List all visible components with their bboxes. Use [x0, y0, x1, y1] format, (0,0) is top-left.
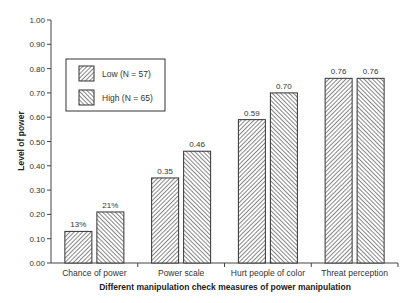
y-axis: 0.000.100.200.300.400.500.600.700.800.90…	[29, 16, 51, 268]
bar-high	[184, 151, 211, 263]
bar-value-label: 0.59	[244, 109, 260, 118]
bar-value-label: 0.76	[331, 67, 347, 76]
y-tick-label: 0.80	[29, 65, 45, 74]
legend-swatch-low	[79, 66, 94, 81]
y-tick-label: 1.00	[29, 16, 45, 25]
y-tick-label: 0.20	[29, 210, 45, 219]
y-tick-label: 0.60	[29, 113, 45, 122]
bar-high	[270, 93, 297, 263]
bar-low	[238, 120, 265, 263]
y-tick-label: 0.10	[29, 235, 45, 244]
bar-chart: 0.000.100.200.300.400.500.600.700.800.90…	[0, 0, 417, 303]
bar-low	[65, 231, 92, 263]
bar-low	[325, 78, 352, 263]
bar-value-label: 13%	[70, 220, 86, 229]
y-tick-label: 0.90	[29, 40, 45, 49]
y-tick-label: 0.70	[29, 89, 45, 98]
y-tick-label: 0.00	[29, 259, 45, 268]
bar-low	[152, 178, 179, 263]
bar-value-label: 0.76	[363, 67, 379, 76]
x-axis-title: Different manipulation check measures of…	[99, 282, 351, 292]
legend: Low (N = 57)High (N = 65)	[66, 59, 165, 111]
y-tick-label: 0.30	[29, 186, 45, 195]
x-axis: Chance of powerPower scaleHurt people of…	[51, 263, 398, 278]
x-category-label: Chance of power	[62, 268, 126, 278]
bar-high	[97, 212, 124, 263]
bar-value-label: 21%	[102, 201, 118, 210]
bar-value-label: 0.70	[276, 82, 292, 91]
x-category-label: Threat perception	[321, 268, 388, 278]
legend-label-high: High (N = 65)	[102, 93, 153, 103]
y-tick-label: 0.50	[29, 138, 45, 147]
x-category-label: Power scale	[158, 268, 205, 278]
bar-high	[357, 78, 384, 263]
y-axis-title: Level of power	[16, 111, 26, 171]
legend-swatch-high	[79, 90, 94, 105]
bar-value-label: 0.35	[157, 167, 173, 176]
y-tick-label: 0.40	[29, 162, 45, 171]
bar-value-label: 0.46	[189, 140, 205, 149]
legend-label-low: Low (N = 57)	[102, 69, 151, 79]
x-category-label: Hurt people of color	[231, 268, 305, 278]
